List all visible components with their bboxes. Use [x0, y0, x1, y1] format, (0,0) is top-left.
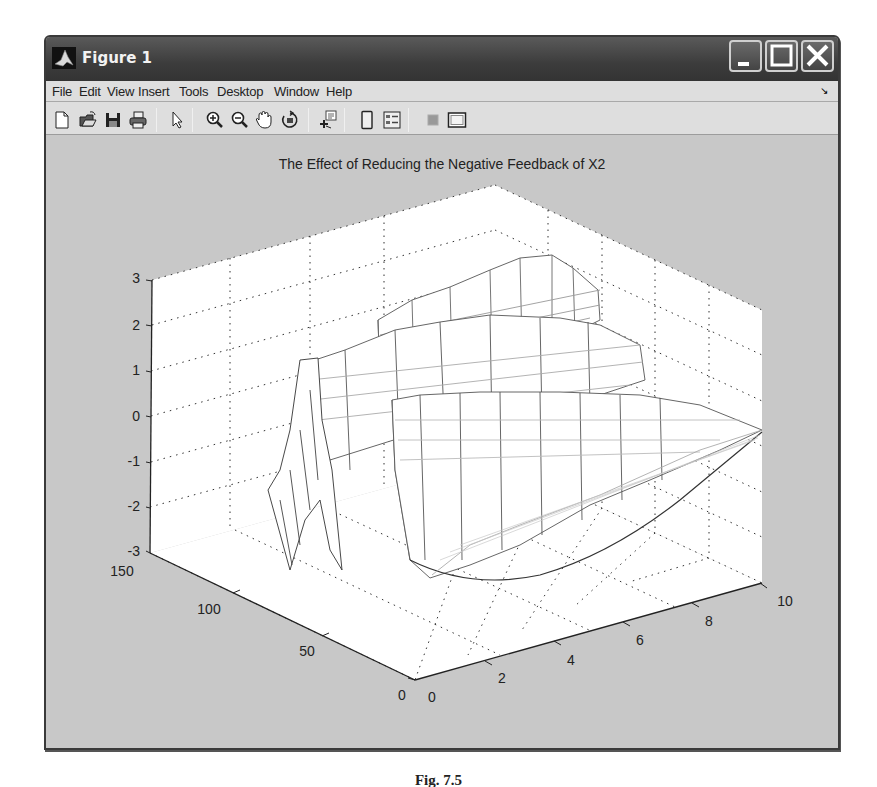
- svg-text:-3: -3: [128, 543, 141, 559]
- svg-text:2: 2: [498, 670, 506, 686]
- svg-text:100: 100: [197, 601, 221, 617]
- svg-text:0: 0: [132, 408, 140, 424]
- svg-text:10: 10: [777, 593, 793, 609]
- svg-text:-1: -1: [128, 453, 141, 469]
- svg-text:0: 0: [398, 687, 406, 703]
- svg-text:8: 8: [705, 613, 713, 629]
- svg-text:50: 50: [299, 643, 315, 659]
- svg-text:0: 0: [428, 689, 436, 705]
- surface-plot[interactable]: 3 2 1 0 -1 -2 -3 0 50 100 150 0 2 4 6 8 …: [0, 0, 877, 787]
- svg-text:1: 1: [132, 362, 140, 378]
- svg-text:6: 6: [636, 632, 644, 648]
- z-axis-labels: 3 2 1 0 -1 -2 -3: [128, 270, 141, 559]
- svg-text:150: 150: [110, 563, 134, 579]
- svg-text:-2: -2: [128, 498, 141, 514]
- svg-text:2: 2: [132, 317, 140, 333]
- svg-text:4: 4: [567, 652, 575, 668]
- figure-caption: Fig. 7.5: [0, 772, 877, 787]
- svg-text:3: 3: [132, 270, 140, 286]
